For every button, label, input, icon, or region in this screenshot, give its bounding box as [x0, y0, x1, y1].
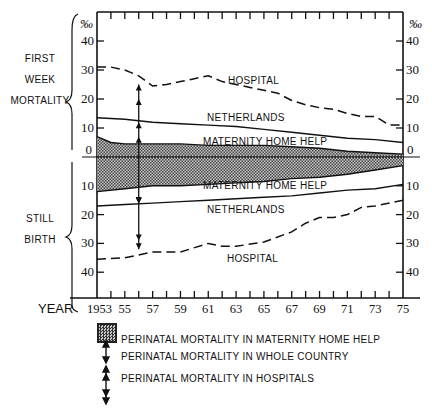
svg-text:BIRTH: BIRTH: [24, 234, 55, 245]
svg-text:MORTALITY: MORTALITY: [10, 95, 69, 106]
svg-text:69: 69: [313, 302, 326, 316]
svg-text:73: 73: [369, 302, 382, 316]
svg-text:20: 20: [81, 91, 94, 106]
svg-text:NETHERLANDS: NETHERLANDS: [207, 204, 285, 215]
svg-text:HOSPITAL: HOSPITAL: [228, 75, 279, 86]
svg-text:40: 40: [81, 264, 94, 279]
svg-text:NETHERLANDS: NETHERLANDS: [207, 112, 285, 123]
svg-text:0: 0: [407, 142, 414, 157]
svg-text:40: 40: [406, 33, 419, 48]
svg-text:10: 10: [406, 178, 419, 193]
svg-text:71: 71: [341, 302, 354, 316]
svg-text:65: 65: [258, 302, 271, 316]
svg-text:30: 30: [81, 235, 94, 250]
svg-text:30: 30: [406, 62, 419, 77]
svg-text:20: 20: [406, 207, 419, 222]
svg-text:57: 57: [146, 302, 159, 316]
legend-swatch-maternity: [97, 323, 117, 343]
legend-label-maternity: PERINATAL MORTALITY IN MATERNITY HOME HE…: [121, 334, 380, 345]
svg-text:75: 75: [397, 302, 410, 316]
svg-text:63: 63: [230, 302, 243, 316]
svg-text:STILL: STILL: [26, 213, 54, 224]
svg-text:10: 10: [81, 178, 94, 193]
svg-text:67: 67: [285, 302, 298, 316]
svg-text:30: 30: [406, 235, 419, 250]
svg-text:MATERNITY HOME HELP: MATERNITY HOME HELP: [203, 136, 327, 147]
svg-text:61: 61: [202, 302, 215, 316]
svg-text:59: 59: [174, 302, 187, 316]
svg-text:20: 20: [406, 91, 419, 106]
legend-label-hospitals: PERINATAL MORTALITY IN HOSPITALS: [121, 373, 314, 384]
svg-text:‰: ‰: [80, 16, 93, 31]
svg-text:40: 40: [81, 33, 94, 48]
svg-text:FIRST: FIRST: [25, 53, 55, 64]
svg-text:30: 30: [81, 62, 94, 77]
svg-text:40: 40: [406, 264, 419, 279]
svg-text:0: 0: [86, 142, 93, 157]
svg-text:55: 55: [119, 302, 132, 316]
svg-text:20: 20: [81, 207, 94, 222]
svg-text:1953: 1953: [87, 302, 112, 316]
svg-text:10: 10: [81, 120, 94, 135]
svg-text:10: 10: [406, 120, 419, 135]
svg-text:‰: ‰: [409, 16, 422, 31]
svg-text:MATERNITY HOME HELP: MATERNITY HOME HELP: [203, 180, 327, 191]
svg-text:YEAR: YEAR: [38, 301, 73, 316]
legend-label-whole-country: PERINATAL MORTALITY IN WHOLE COUNTRY: [121, 351, 349, 362]
svg-text:HOSPITAL: HOSPITAL: [227, 253, 278, 264]
svg-text:WEEK: WEEK: [25, 74, 56, 85]
